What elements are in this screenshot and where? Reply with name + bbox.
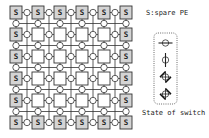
switch-node: [123, 64, 129, 70]
spare-pe-label: S: [58, 118, 63, 127]
switch-state-legend: [154, 33, 177, 104]
switch-node: [46, 53, 52, 59]
switch-node: [13, 42, 19, 48]
switch-node: [46, 75, 52, 81]
pe-box: [98, 72, 110, 85]
switch-node: [90, 97, 96, 103]
switch-state-diagonal-turn-a-icon: [160, 72, 171, 83]
switch-node: [68, 9, 74, 15]
switch-node: [57, 108, 63, 114]
spare-pe-label: S: [124, 30, 129, 39]
pe-box: [98, 28, 110, 41]
switch-node: [68, 75, 74, 81]
switch-node: [101, 64, 107, 70]
switch-node: [123, 42, 129, 48]
spare-pe-label: S: [14, 74, 19, 83]
switch-node: [46, 119, 52, 125]
spare-pe-label: S: [124, 118, 129, 127]
switch-node: [90, 75, 96, 81]
switch-node: [112, 31, 118, 37]
spare-pe-label: S: [102, 8, 107, 17]
switch-node: [90, 119, 96, 125]
switch-node: [13, 108, 19, 114]
switch-node: [35, 64, 41, 70]
switch-node: [101, 20, 107, 26]
spare-pe-label: S: [102, 118, 107, 127]
switch-node: [13, 20, 19, 26]
switch-node: [123, 86, 129, 92]
pe-box: [76, 28, 88, 41]
spare-pe-label: S: [14, 118, 19, 127]
spare-pe-label: S: [58, 8, 63, 17]
switch-node: [112, 53, 118, 59]
switch-node: [68, 97, 74, 103]
spare-pe-label: S: [14, 96, 19, 105]
switch-node: [35, 108, 41, 114]
spare-pe-label: S: [14, 52, 19, 61]
pe-box: [98, 94, 110, 107]
switch-node: [24, 75, 30, 81]
switch-node: [68, 119, 74, 125]
switch-node: [123, 20, 129, 26]
switch-node: [68, 31, 74, 37]
switch-node: [68, 53, 74, 59]
spare-pe-label: S: [80, 8, 85, 17]
spare-pe-label: S: [124, 8, 129, 17]
pe-box: [76, 94, 88, 107]
switch-node: [35, 86, 41, 92]
switch-node: [101, 42, 107, 48]
switch-node: [24, 53, 30, 59]
switch-node: [35, 20, 41, 26]
switch-node: [79, 42, 85, 48]
switch-node: [24, 31, 30, 37]
switch-node: [35, 42, 41, 48]
switch-node: [79, 86, 85, 92]
switch-node: [112, 9, 118, 15]
switch-node: [24, 97, 30, 103]
switch-node: [57, 20, 63, 26]
pe-box: [54, 72, 66, 85]
spare-pe-label: S: [124, 52, 129, 61]
pe-box: [54, 94, 66, 107]
pe-box: [76, 50, 88, 63]
pe-box: [32, 72, 44, 85]
switch-node: [46, 31, 52, 37]
switch-node: [101, 86, 107, 92]
switch-node: [112, 75, 118, 81]
pe-box: [54, 50, 66, 63]
switch-state-vertical-pass-icon: [162, 53, 168, 67]
spare-pe-label: S: [14, 30, 19, 39]
switch-node: [90, 9, 96, 15]
legend-switch-state-label: State of switch: [142, 109, 205, 117]
switch-node: [101, 108, 107, 114]
switch-node: [90, 31, 96, 37]
switch-node: [13, 86, 19, 92]
switch-node: [57, 86, 63, 92]
pe-box: [76, 72, 88, 85]
switch-node: [79, 108, 85, 114]
pe-box: [98, 50, 110, 63]
legend-spare-pe-label: S:spare PE: [146, 9, 188, 17]
pe-box: [32, 50, 44, 63]
switch-state-diagonal-turn-b-icon: [160, 89, 171, 100]
switch-node: [57, 64, 63, 70]
switch-node: [112, 119, 118, 125]
pe-array-diagram: SSSSSSSSSSSSSSSSSSSS: [0, 0, 209, 138]
pe-box: [32, 28, 44, 41]
spare-pe-label: S: [124, 74, 129, 83]
spare-pe-label: S: [36, 118, 41, 127]
switch-node: [90, 53, 96, 59]
spare-pe-label: S: [36, 8, 41, 17]
pe-box: [32, 94, 44, 107]
switch-node: [46, 97, 52, 103]
switch-node: [79, 64, 85, 70]
spare-pe-label: S: [14, 8, 19, 17]
switch-node: [79, 20, 85, 26]
switch-node: [24, 119, 30, 125]
switch-node: [123, 108, 129, 114]
switch-node: [13, 64, 19, 70]
switch-node: [24, 9, 30, 15]
spare-pe-label: S: [124, 96, 129, 105]
switch-node: [112, 97, 118, 103]
switch-node: [46, 9, 52, 15]
